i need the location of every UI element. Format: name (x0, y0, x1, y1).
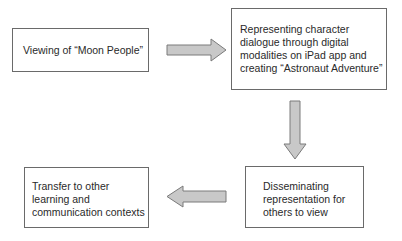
node-label-line: dialogue through digital (240, 36, 382, 49)
node-transfer-contexts: Transfer to other learning and communica… (24, 167, 149, 228)
node-disseminating-representation: Disseminating representation for others … (245, 166, 364, 228)
node-label-line: Disseminating (263, 180, 345, 193)
node-label-line: Representing character (240, 23, 382, 36)
node-label-line: Transfer to other (32, 180, 145, 193)
node-label: Viewing of “Moon People” (23, 44, 143, 57)
node-label-line: modalities on iPad app and (240, 49, 382, 62)
node-label-line: learning and (32, 193, 145, 206)
node-label-line: others to view (263, 206, 345, 219)
node-label-line: communication contexts (32, 206, 145, 219)
node-representing-dialogue: Representing character dialogue through … (231, 8, 387, 90)
arrow-left-icon (166, 185, 227, 208)
node-label-line: representation for (263, 193, 345, 206)
node-label-line: creating “Astronaut Adventure” (240, 62, 382, 75)
node-viewing-moon-people: Viewing of “Moon People” (12, 28, 149, 72)
arrow-right-icon (166, 38, 228, 62)
arrow-down-icon (283, 100, 307, 160)
